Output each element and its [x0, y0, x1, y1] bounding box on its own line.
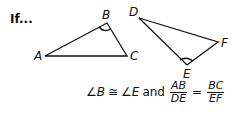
similarity-condition: ∠B ≅ ∠E and AB DE = BC EF — [86, 80, 226, 104]
fraction-bc-ef: BC EF — [207, 80, 224, 104]
angle-b: ∠B — [86, 85, 105, 99]
label-d: D — [129, 6, 138, 18]
and-text: and — [142, 85, 165, 99]
fraction-ab-de: AB DE — [170, 80, 187, 104]
label-b: B — [102, 9, 110, 21]
label-a: A — [34, 50, 42, 62]
triangle-def — [139, 18, 218, 65]
congruent-symbol: ≅ — [108, 85, 118, 99]
equals-symbol: = — [192, 85, 202, 99]
label-f: F — [221, 37, 228, 49]
label-c: C — [130, 50, 138, 62]
triangle-abc — [45, 23, 127, 56]
angle-e: ∠E — [121, 85, 139, 99]
